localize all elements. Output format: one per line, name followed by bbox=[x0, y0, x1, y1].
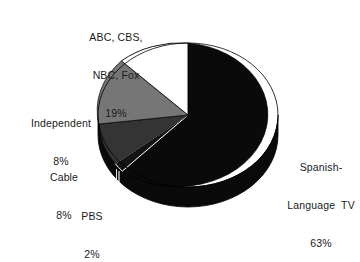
slice-label-line-1: PBS bbox=[42, 210, 142, 223]
slice-label-value: 63% bbox=[282, 237, 360, 250]
slice-label-value: 2% bbox=[42, 248, 142, 261]
slice-label-line-1: Independent bbox=[2, 117, 120, 130]
slice-label-line-1: Cable bbox=[14, 171, 114, 184]
slice-label-line-1: ABC, CBS, bbox=[55, 31, 177, 44]
slice-label-line-1: Spanish- bbox=[282, 161, 360, 174]
slice-label-line-2: Language TV bbox=[282, 199, 360, 212]
slice-label-pbs: PBS 2% bbox=[42, 185, 142, 262]
slice-label-spanish-language-tv: Spanish- Language TV 63% bbox=[282, 136, 360, 262]
slice-label-line-2: NBC, Fox bbox=[55, 69, 177, 82]
